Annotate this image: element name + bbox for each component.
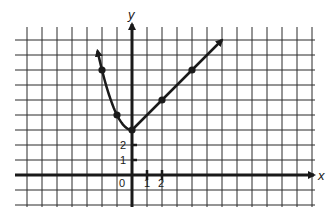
x-tick-label-1: 1 bbox=[144, 178, 150, 189]
x-tick-label-2: 2 bbox=[158, 178, 164, 189]
data-point bbox=[158, 96, 165, 103]
y-tick-label-1: 1 bbox=[120, 155, 126, 166]
y-tick-label-2: 2 bbox=[120, 140, 126, 151]
data-point bbox=[113, 111, 120, 118]
grid-lines bbox=[15, 27, 315, 207]
x-axis-label: x bbox=[318, 169, 325, 182]
data-point bbox=[188, 66, 195, 73]
y-axis-label: y bbox=[128, 8, 135, 21]
coordinate-plane bbox=[0, 0, 330, 221]
left-branch-curve bbox=[98, 51, 133, 130]
data-point bbox=[98, 66, 105, 73]
data-point bbox=[128, 126, 135, 133]
origin-label: 0 bbox=[119, 178, 125, 189]
